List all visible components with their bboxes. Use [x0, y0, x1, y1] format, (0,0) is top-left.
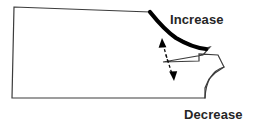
increase-label: Increase: [170, 13, 224, 26]
figure-canvas: Increase Decrease: [0, 0, 256, 127]
decrease-label: Decrease: [184, 108, 243, 121]
